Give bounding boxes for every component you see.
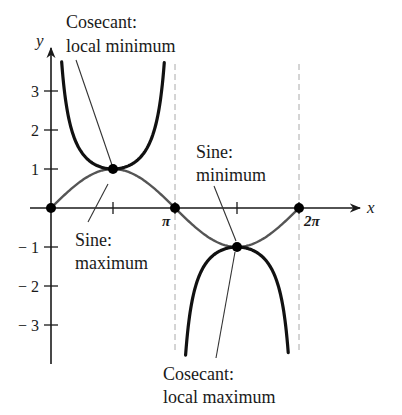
annotation-csc-local-max-line2: local maximum — [163, 387, 275, 407]
y-tick-label-neg2: − 2 — [18, 278, 39, 295]
y-tick-label-2: 2 — [31, 122, 39, 139]
annotation-sine-max-line1: Sine: — [75, 230, 112, 250]
key-point — [46, 203, 56, 213]
cosecant-curve — [62, 62, 165, 169]
x-axis-label: x — [366, 198, 375, 217]
annotation-sine-min-line1: Sine: — [196, 142, 233, 162]
annotation-sine-max-line2: maximum — [75, 253, 148, 273]
annotation-csc-local-min-line1: Cosecant: — [66, 12, 137, 32]
annotation-csc-local-min-line2: local minimum — [66, 36, 176, 56]
key-point — [170, 203, 180, 213]
y-tick-label-3: 3 — [31, 83, 39, 100]
annotation-sine-min-line2: minimum — [196, 165, 266, 185]
leader-lines — [76, 60, 236, 358]
y-tick-label-neg1: − 1 — [18, 239, 39, 256]
leader-csc-local-max — [216, 252, 235, 358]
x-tick-label-pi: π — [162, 213, 171, 229]
key-point — [294, 203, 304, 213]
y-axis-label: y — [34, 31, 44, 50]
annotation-csc-local-max-line1: Cosecant: — [163, 364, 234, 384]
sine-cosecant-chart: y x 3 2 1 − 1 − 2 − 3 π 2π Cosecant: loc… — [0, 0, 402, 415]
key-point — [232, 242, 242, 252]
y-tick-label-neg3: − 3 — [18, 317, 39, 334]
key-point — [108, 164, 118, 174]
x-tick-label-2pi: 2π — [303, 213, 321, 229]
leader-sine-max — [88, 184, 108, 222]
cosecant-curve — [186, 247, 289, 355]
y-tick-label-1: 1 — [31, 161, 39, 178]
leader-sine-min — [214, 186, 236, 241]
